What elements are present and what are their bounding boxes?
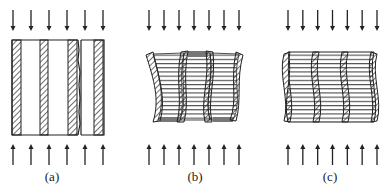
- arrow-up-icon: [315, 144, 320, 165]
- arrow-down-icon: [11, 10, 16, 31]
- arrow-up-icon: [345, 144, 350, 165]
- arrow-up-icon: [222, 144, 227, 165]
- panel-b: (b): [146, 10, 243, 184]
- bottom-load-arrows-c: [286, 144, 380, 165]
- hatched-layer: [68, 40, 77, 135]
- panel-label-a: (a): [45, 169, 59, 184]
- arrow-up-icon: [83, 144, 88, 165]
- arrow-up-icon: [47, 144, 52, 165]
- figure-canvas: (a) (b) (c): [0, 0, 391, 193]
- arrow-up-icon: [177, 144, 182, 165]
- arrow-up-icon: [300, 144, 305, 165]
- hatched-layer: [40, 40, 48, 135]
- panel-c: (c): [282, 10, 379, 184]
- arrow-up-icon: [65, 144, 70, 165]
- arrow-down-icon: [345, 10, 350, 31]
- arrow-down-icon: [375, 10, 380, 31]
- arrow-down-icon: [162, 10, 167, 31]
- hatched-layer: [12, 40, 21, 135]
- arrow-down-icon: [315, 10, 320, 31]
- arrow-down-icon: [286, 10, 291, 31]
- arrow-up-icon: [330, 144, 335, 165]
- arrow-up-icon: [162, 144, 167, 165]
- panel-label-c: (c): [323, 169, 337, 184]
- top-load-arrows-b: [147, 10, 242, 31]
- arrow-down-icon: [101, 10, 106, 31]
- arrow-down-icon: [177, 10, 182, 31]
- arrow-down-icon: [65, 10, 70, 31]
- arrow-up-icon: [286, 144, 291, 165]
- arrow-down-icon: [222, 10, 227, 31]
- arrow-up-icon: [147, 144, 152, 165]
- arrow-up-icon: [192, 144, 197, 165]
- bottom-load-arrows-b: [147, 144, 242, 165]
- arrow-up-icon: [11, 144, 16, 165]
- arrow-down-icon: [360, 10, 365, 31]
- panel-label-b: (b): [187, 169, 202, 184]
- arrow-up-icon: [207, 144, 212, 165]
- arrow-down-icon: [47, 10, 52, 31]
- arrow-down-icon: [29, 10, 34, 31]
- arrow-down-icon: [207, 10, 212, 31]
- arrow-down-icon: [330, 10, 335, 31]
- top-load-arrows-c: [286, 10, 380, 31]
- arrow-up-icon: [237, 144, 242, 165]
- layered-block-a: [12, 40, 104, 135]
- arrow-down-icon: [300, 10, 305, 31]
- arrow-up-icon: [375, 144, 380, 165]
- arrow-up-icon: [101, 144, 106, 165]
- arrow-up-icon: [360, 144, 365, 165]
- arrow-down-icon: [192, 10, 197, 31]
- sheared-block-c: [282, 52, 378, 122]
- arrow-down-icon: [237, 10, 242, 31]
- hatched-layer: [94, 40, 103, 135]
- bottom-load-arrows-a: [11, 144, 106, 165]
- top-load-arrows-a: [11, 10, 106, 31]
- panel-a: (a): [11, 10, 106, 184]
- arrow-down-icon: [83, 10, 88, 31]
- buckled-block-b: [146, 51, 243, 122]
- arrow-up-icon: [29, 144, 34, 165]
- arrow-down-icon: [147, 10, 152, 31]
